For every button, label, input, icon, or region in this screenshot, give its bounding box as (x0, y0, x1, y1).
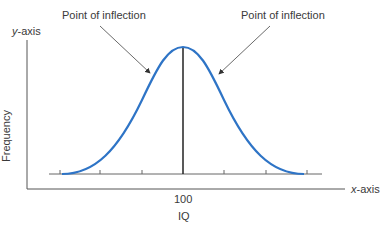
bell-curve-diagram (0, 0, 387, 230)
inflection-label-left: Point of inflection (62, 9, 146, 21)
arrow-left (100, 26, 150, 73)
arrow-right (219, 26, 270, 74)
x-axis-label: x-axis (351, 183, 380, 195)
y-axis-label: y-axis (12, 25, 41, 37)
frequency-label: Frequency (0, 110, 12, 162)
iq-label: IQ (178, 210, 190, 222)
inflection-label-right: Point of inflection (241, 9, 325, 21)
tick-label-100: 100 (174, 193, 192, 205)
